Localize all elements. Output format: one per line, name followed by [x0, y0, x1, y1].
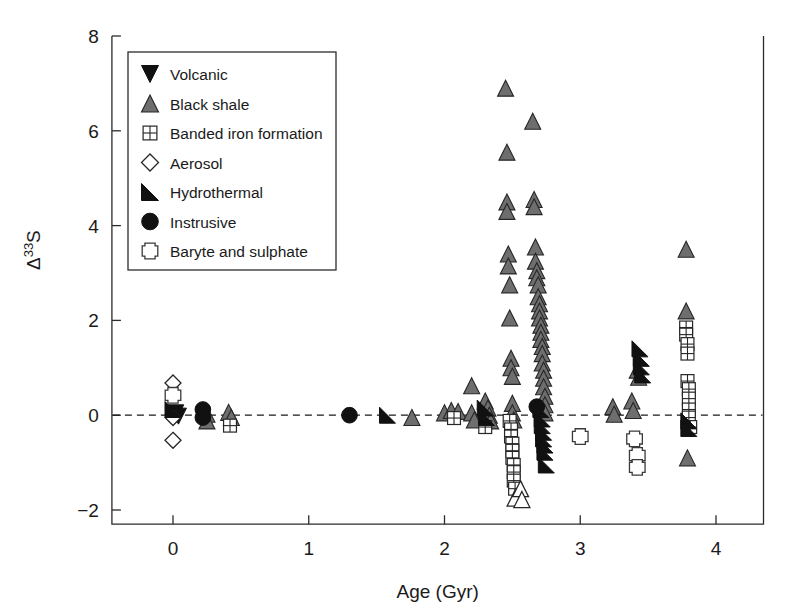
legend-item-instrusive[interactable]: Instrusive — [142, 213, 237, 230]
marker-cross — [142, 243, 158, 259]
x-tick-label: 2 — [439, 538, 450, 559]
scatter-plot: −20246801234 Age (Gyr)Δ33S VolcanicBlack… — [0, 0, 806, 612]
marker-triangle-up — [678, 303, 694, 319]
y-tick-label: 8 — [88, 26, 99, 47]
y-axis-title: Δ33S — [21, 230, 45, 270]
marker-circle — [342, 407, 358, 423]
marker-diamond — [165, 432, 181, 448]
legend-box — [128, 52, 336, 270]
y-tick-label: 0 — [88, 405, 99, 426]
marker-triangle-up — [502, 277, 518, 293]
legend-label: Instrusive — [170, 214, 236, 231]
y-tick-label: 4 — [88, 216, 99, 237]
marker-circle — [529, 399, 545, 415]
marker-triangle-up — [499, 144, 515, 160]
marker-circle — [142, 213, 159, 230]
x-tick-label: 0 — [168, 538, 179, 559]
legend-label: Hydrothermal — [170, 184, 263, 201]
x-axis-title: Age (Gyr) — [397, 581, 479, 602]
legend-label: Baryte and sulphate — [170, 243, 308, 260]
y-tick-label: −2 — [77, 500, 99, 521]
marker-square-grid — [681, 347, 694, 360]
y-tick-label: 2 — [88, 310, 99, 331]
marker-triangle-up — [498, 80, 514, 96]
marker-cross — [629, 460, 645, 476]
marker-triangle-up — [678, 241, 694, 257]
marker-square-grid — [143, 126, 157, 140]
legend-label: Aerosol — [170, 155, 223, 172]
marker-square-grid — [224, 419, 237, 432]
marker-triangle-up — [502, 310, 518, 326]
chart-legend[interactable]: VolcanicBlack shaleBanded iron formation… — [128, 52, 336, 270]
marker-cross — [627, 431, 643, 447]
marker-triangle-up — [464, 378, 480, 394]
figure-container: −20246801234 Age (Gyr)Δ33S VolcanicBlack… — [0, 0, 806, 612]
marker-triangle-up — [404, 410, 420, 426]
marker-square-grid — [448, 412, 461, 425]
x-tick-label: 3 — [575, 538, 586, 559]
x-tick-label: 1 — [303, 538, 314, 559]
x-tick-label: 4 — [711, 538, 722, 559]
marker-triangle-up — [525, 113, 541, 129]
legend-item-banded-iron-formation[interactable]: Banded iron formation — [143, 125, 322, 142]
marker-triangle-up — [679, 450, 695, 466]
marker-cross — [572, 429, 588, 445]
series-baryte-and-sulphate — [165, 387, 645, 475]
legend-label: Volcanic — [170, 66, 228, 83]
legend-label: Black shale — [170, 96, 249, 113]
marker-circle — [195, 410, 211, 426]
legend-label: Banded iron formation — [170, 125, 323, 142]
y-tick-label: 6 — [88, 121, 99, 142]
marker-cross — [165, 387, 181, 403]
